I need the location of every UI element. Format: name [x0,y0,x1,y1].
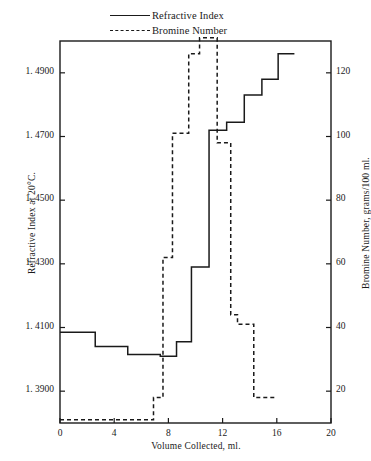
series-line-refractive-index [60,54,294,356]
plot-frame [60,41,331,423]
